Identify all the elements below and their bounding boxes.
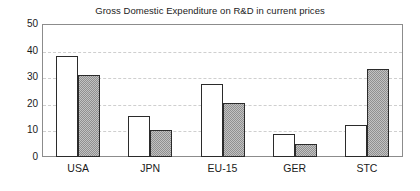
x-axis-tick-labels: USAJPNEU-15GERSTC: [42, 162, 403, 182]
y-axis-tick-labels: 01020304050: [0, 24, 38, 157]
x-axis-tick-label-usa: USA: [42, 162, 114, 175]
bar-eu-15-series-a: [201, 84, 223, 157]
bar-ger-series-b: [295, 144, 317, 157]
bar-eu-15-series-b: [223, 103, 245, 157]
y-axis-tick-label: 40: [0, 46, 38, 56]
y-axis-tick-label: 10: [0, 125, 38, 135]
y-axis-tick-label: 20: [0, 99, 38, 109]
y-axis-tick-label: 0: [0, 152, 38, 162]
y-axis-tick-label: 50: [0, 19, 38, 29]
y-axis-tick-label: 30: [0, 72, 38, 82]
x-axis-tick-label-stc: STC: [331, 162, 403, 175]
x-axis-tick-label-ger: GER: [259, 162, 331, 175]
bar-group-stc: [345, 24, 389, 157]
bar-stc-series-b: [367, 69, 389, 157]
bar-jpn-series-b: [150, 130, 172, 157]
bar-stc-series-a: [345, 125, 367, 157]
x-axis-tick-label-jpn: JPN: [114, 162, 186, 175]
bar-group-jpn: [128, 24, 172, 157]
bar-usa-series-b: [78, 75, 100, 157]
chart-figure: Gross Domestic Expenditure on R&D in cur…: [0, 0, 420, 191]
bar-ger-series-a: [273, 134, 295, 157]
bar-group-eu-15: [201, 24, 245, 157]
bar-group-usa: [56, 24, 100, 157]
bar-jpn-series-a: [128, 116, 150, 157]
x-axis-tick-label-eu-15: EU-15: [186, 162, 258, 175]
bar-group-ger: [273, 24, 317, 157]
bar-usa-series-a: [56, 56, 78, 157]
bars-layer: [42, 24, 403, 157]
chart-title: Gross Domestic Expenditure on R&D in cur…: [0, 5, 420, 17]
